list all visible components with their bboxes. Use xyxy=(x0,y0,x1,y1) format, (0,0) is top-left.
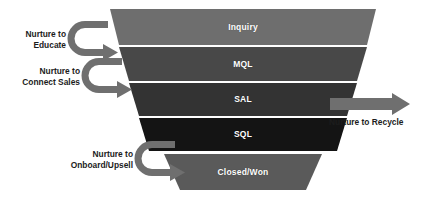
nurture-label-recycle: Nurture to Recycle xyxy=(329,117,403,128)
nurture-arrow-educate[interactable] xyxy=(68,21,119,61)
funnel-label-sql: SQL xyxy=(234,129,252,139)
nurture-label-onboard-upsell-line1: Nurture to xyxy=(71,149,133,160)
funnel-label-mql: MQL xyxy=(233,59,252,69)
nurture-label-recycle-line1: Nurture to Recycle xyxy=(329,117,403,128)
nurture-label-onboard-upsell-line2: Onboard/Upsell xyxy=(71,159,133,170)
nurture-label-educate-line1: Nurture to xyxy=(26,29,66,40)
nurture-label-connect-sales: Nurture to Connect Sales xyxy=(22,66,80,87)
funnel-diagram: Inquiry MQL SAL SQL Closed/Won Nurture t… xyxy=(0,0,423,204)
nurture-label-connect-sales-line2: Connect Sales xyxy=(22,76,80,87)
nurture-label-connect-sales-line1: Nurture to xyxy=(22,66,80,77)
nurture-label-educate: Nurture to Educate xyxy=(26,29,66,50)
funnel-label-inquiry: Inquiry xyxy=(228,22,258,32)
funnel-label-closed-won: Closed/Won xyxy=(218,167,269,177)
funnel-label-sal: SAL xyxy=(234,94,252,104)
nurture-label-educate-line2: Educate xyxy=(26,39,66,50)
nurture-label-onboard-upsell: Nurture to Onboard/Upsell xyxy=(71,149,133,170)
